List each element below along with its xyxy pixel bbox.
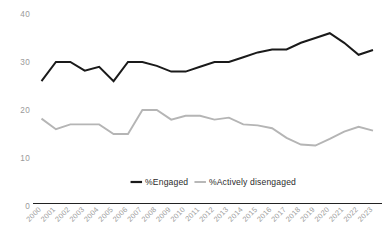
y-tick-label: 0 <box>25 202 30 211</box>
y-tick-label: 10 <box>20 154 30 163</box>
x-tick-label: 2012 <box>197 205 216 224</box>
x-tick-label: 2015 <box>241 205 260 224</box>
x-tick-label: 2014 <box>226 205 245 224</box>
x-tick-label: 2001 <box>39 205 58 224</box>
series-line-engaged <box>42 33 374 81</box>
series-line-actively-disengaged <box>42 110 374 146</box>
x-tick-label: 2016 <box>255 205 274 224</box>
x-tick-label: 2003 <box>68 205 87 224</box>
legend-item-engaged[interactable]: %Engaged <box>131 177 189 187</box>
x-tick-label: 2021 <box>327 205 346 224</box>
y-tick-label: 40 <box>20 10 30 19</box>
x-tick-label: 2006 <box>111 205 130 224</box>
x-tick-label: 2005 <box>96 205 115 224</box>
x-tick-label: 2011 <box>183 205 201 223</box>
x-tick-label: 2010 <box>168 205 187 224</box>
x-tick-label: 2004 <box>82 205 101 224</box>
x-tick-label: 2009 <box>154 205 173 224</box>
x-tick-label: 2013 <box>212 205 231 224</box>
x-tick-label: 2007 <box>125 205 144 224</box>
x-tick-label: 2002 <box>53 205 72 224</box>
legend-item-actively-disengaged[interactable]: %Actively disengaged <box>194 177 296 187</box>
x-tick-label: 2020 <box>313 205 332 224</box>
y-axis-tick-labels: 010203040 <box>20 10 30 211</box>
x-axis-tick-labels: 2000200120022003200420052006200720082009… <box>24 205 374 224</box>
x-tick-label: 2017 <box>269 205 288 224</box>
x-tick-label: 2008 <box>140 205 159 224</box>
legend-label: %Engaged <box>145 177 188 187</box>
chart-canvas: 010203040 200020012002200320042005200620… <box>0 0 389 228</box>
x-tick-label: 2023 <box>356 205 375 224</box>
series-lines-group <box>42 33 374 145</box>
chart-legend: %Engaged%Actively disengaged <box>131 177 297 187</box>
y-tick-label: 30 <box>20 58 30 67</box>
x-tick-label: 2018 <box>284 205 303 224</box>
x-tick-label: 2019 <box>298 205 317 224</box>
legend-label: %Actively disengaged <box>209 177 296 187</box>
line-chart: 010203040 200020012002200320042005200620… <box>0 0 389 228</box>
y-tick-label: 20 <box>20 106 30 115</box>
x-tick-label: 2022 <box>341 205 360 224</box>
